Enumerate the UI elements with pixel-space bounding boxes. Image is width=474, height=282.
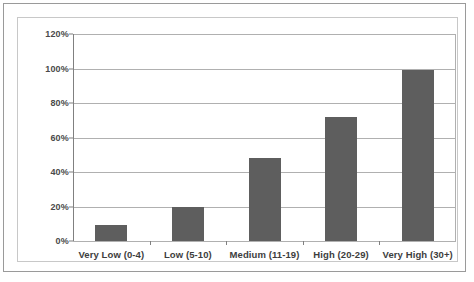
plot-area bbox=[73, 34, 456, 241]
x-tick-mark bbox=[379, 241, 380, 245]
x-tick-mark bbox=[150, 241, 151, 245]
y-tick-label: 60% bbox=[50, 133, 69, 143]
x-tick-label: High (20-29) bbox=[313, 249, 369, 260]
x-tick-label: Very Low (0-4) bbox=[78, 249, 144, 260]
x-tick-mark bbox=[226, 241, 227, 245]
y-tick-label: 20% bbox=[50, 202, 69, 212]
bar bbox=[172, 207, 204, 242]
x-tick-label: Low (5-10) bbox=[164, 249, 212, 260]
y-tick-label: 80% bbox=[50, 98, 69, 108]
bar bbox=[325, 117, 357, 241]
bar bbox=[249, 158, 281, 241]
y-tick-label: 120% bbox=[45, 29, 69, 39]
bar bbox=[95, 225, 127, 241]
x-axis-ticks bbox=[73, 241, 456, 246]
x-tick-label: Medium (11-19) bbox=[229, 249, 299, 260]
chart-plot-frame: 0%20%40%60%80%100%120% Very Low (0-4)Low… bbox=[17, 17, 458, 262]
y-axis-labels: 0%20%40%60%80%100%120% bbox=[28, 34, 69, 241]
bar bbox=[402, 70, 434, 241]
y-tick-label: 0% bbox=[56, 236, 69, 246]
x-tick-mark bbox=[303, 241, 304, 245]
chart-outer-frame: 0%20%40%60%80%100%120% Very Low (0-4)Low… bbox=[3, 3, 466, 272]
y-tick-label: 100% bbox=[45, 64, 69, 74]
y-tick-label: 40% bbox=[50, 167, 69, 177]
bars-group bbox=[73, 34, 456, 241]
x-axis-labels: Very Low (0-4)Low (5-10)Medium (11-19)Hi… bbox=[73, 249, 456, 265]
x-tick-label: Very High (30+) bbox=[382, 249, 452, 260]
